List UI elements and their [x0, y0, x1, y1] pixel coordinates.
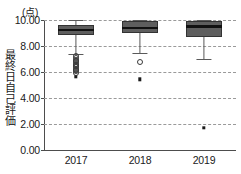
y-tick-mark	[41, 150, 44, 151]
y-tick-label: 6.00	[20, 66, 40, 78]
y-tick-label: 4.00	[20, 92, 40, 104]
y-tick-mark	[41, 46, 44, 47]
gridline	[44, 98, 236, 99]
x-axis-line	[44, 150, 236, 151]
y-tick-label: 2.00	[20, 118, 40, 130]
median-line	[186, 25, 222, 27]
y-tick-label: 8.00	[20, 40, 40, 52]
x-tick-label: 2017	[65, 154, 88, 166]
y-tick-mark	[41, 72, 44, 73]
median-line	[122, 27, 158, 29]
whisker-cap-lower	[132, 53, 147, 54]
y-tick-label: 0.00	[20, 144, 40, 156]
outlier-marker	[137, 59, 143, 65]
y-tick-mark	[41, 98, 44, 99]
extreme-outlier-marker	[74, 75, 77, 78]
box-rect	[186, 21, 222, 37]
y-axis-line	[44, 20, 45, 150]
extreme-outlier-marker	[202, 126, 205, 129]
y-tick-mark	[41, 124, 44, 125]
whisker-cap-lower	[196, 59, 211, 60]
x-tick-label: 2019	[193, 154, 216, 166]
plot-area: 0.002.004.006.008.0010.00 201720182019	[44, 20, 236, 150]
gridline	[44, 124, 236, 125]
y-tick-label: 10.00	[15, 14, 40, 26]
y-tick-mark	[41, 20, 44, 21]
extreme-outlier-marker	[138, 77, 141, 80]
x-tick-label: 2018	[129, 154, 152, 166]
whisker-cap-upper	[68, 20, 83, 21]
boxplot-figure: (点) 最終日自己評価 0.002.004.006.008.0010.00 20…	[0, 0, 241, 174]
median-line	[58, 29, 94, 31]
y-axis-title: 最終日自己評価	[2, 26, 17, 148]
